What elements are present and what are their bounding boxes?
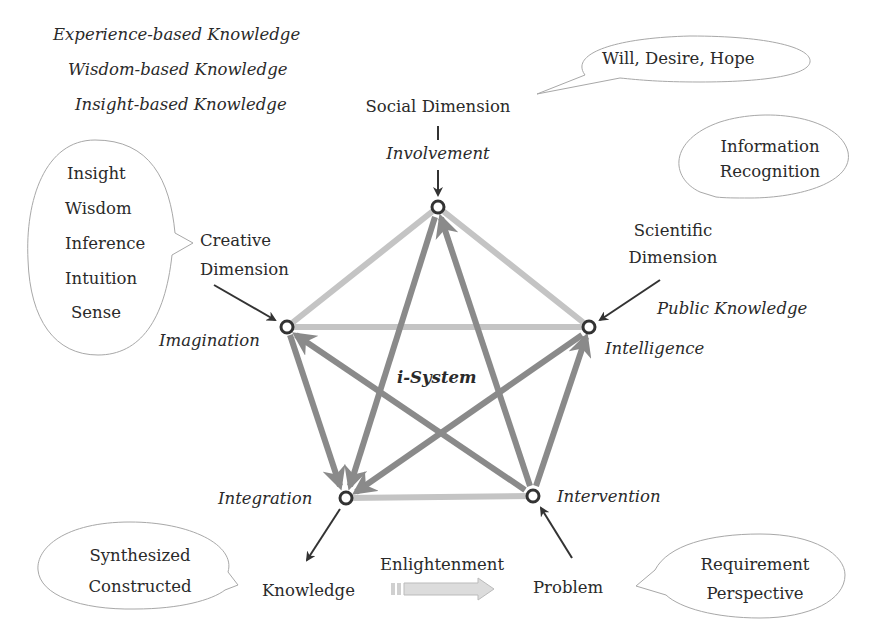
creative-item-intuition: Intuition — [65, 271, 137, 288]
public-knowledge-label: Public Knowledge — [657, 301, 807, 318]
knowledge-type-wisdom: Wisdom-based Knowledge — [68, 62, 288, 79]
enlightenment-label: Enlightenment — [380, 557, 504, 574]
bubble-information-line1: Information — [710, 139, 830, 156]
problem-label: Problem — [533, 580, 603, 597]
bubble-requirement-line1: Requirement — [690, 557, 820, 574]
bubble-will-text: Will, Desire, Hope — [602, 51, 755, 68]
social-dimension-label: Social Dimension — [358, 99, 518, 116]
scientific-dimension-line1: Scientific — [618, 223, 728, 240]
node-intervention — [527, 490, 539, 502]
knowledge-type-experience: Experience-based Knowledge — [53, 27, 300, 44]
dark-arrows — [290, 217, 586, 492]
bubble-information-recognition — [679, 115, 849, 198]
bubble-information-line2: Recognition — [710, 164, 830, 181]
bubble-synthesized-line1: Synthesized — [75, 548, 205, 565]
node-label-involvement: Involvement — [378, 146, 498, 163]
creative-item-insight: Insight — [67, 166, 126, 183]
creative-dimension-line1: Creative — [200, 233, 271, 250]
i-system-diagram: Experience-based Knowledge Wisdom-based … — [0, 0, 878, 642]
creative-item-sense: Sense — [71, 305, 121, 322]
knowledge-label: Knowledge — [262, 583, 355, 600]
bubble-requirement-line2: Perspective — [690, 586, 820, 603]
center-label-i-system: i-System — [397, 370, 477, 387]
creative-item-inference: Inference — [65, 236, 145, 253]
node-integration — [340, 492, 352, 504]
creative-item-wisdom: Wisdom — [65, 201, 132, 218]
node-label-integration: Integration — [218, 491, 312, 508]
node-imagination — [281, 321, 293, 333]
node-label-imagination: Imagination — [159, 333, 260, 350]
node-label-intervention: Intervention — [557, 489, 661, 506]
enlightenment-arrow — [391, 578, 494, 600]
bubble-synthesized-line2: Constructed — [75, 579, 205, 596]
knowledge-type-insight: Insight-based Knowledge — [75, 97, 287, 114]
node-label-intelligence: Intelligence — [605, 341, 704, 358]
node-intelligence — [583, 321, 595, 333]
node-involvement — [432, 201, 444, 213]
scientific-dimension-line2: Dimension — [618, 250, 728, 267]
creative-dimension-line2: Dimension — [200, 262, 289, 279]
bubble-requirement-perspective — [636, 534, 845, 618]
